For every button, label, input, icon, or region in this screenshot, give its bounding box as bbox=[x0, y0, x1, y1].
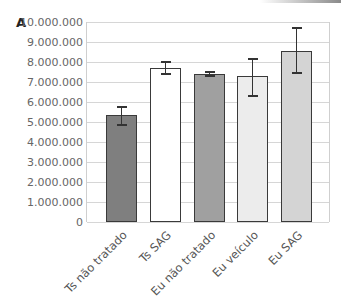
y-tick-label: 2.000.000 bbox=[27, 176, 83, 189]
y-tick-label: 4.000.000 bbox=[27, 136, 83, 149]
error-bar-cap bbox=[161, 61, 171, 63]
y-tick-label: 6.000.000 bbox=[27, 96, 83, 109]
error-bar-cap bbox=[248, 58, 258, 60]
bar bbox=[150, 68, 181, 222]
gridline bbox=[87, 42, 329, 43]
error-bar bbox=[165, 62, 167, 74]
x-tick-label: Eu SAG bbox=[265, 228, 305, 268]
bar bbox=[106, 115, 137, 222]
error-bar-cap bbox=[205, 71, 215, 73]
bar bbox=[194, 74, 225, 222]
y-tick-label: 8.000.000 bbox=[27, 56, 83, 69]
plot-area bbox=[86, 22, 330, 222]
gridline bbox=[87, 22, 329, 23]
decorative-top-rule bbox=[260, 0, 341, 3]
error-bar-cap bbox=[292, 72, 302, 74]
error-bar bbox=[252, 59, 254, 96]
error-bar-cap bbox=[292, 27, 302, 29]
error-bar-cap bbox=[117, 124, 127, 126]
y-tick-label: 7.000.000 bbox=[27, 76, 83, 89]
gridline bbox=[87, 222, 329, 223]
x-tick-label: Ts não tratado bbox=[62, 228, 130, 296]
y-tick-label: 5.000.000 bbox=[27, 116, 83, 129]
error-bar-cap bbox=[161, 73, 171, 75]
y-tick-label: 9.000.000 bbox=[27, 36, 83, 49]
error-bar-cap bbox=[248, 95, 258, 97]
y-tick-label: 0 bbox=[76, 216, 83, 229]
bar bbox=[281, 51, 312, 222]
y-tick-label: 3.000.000 bbox=[27, 156, 83, 169]
error-bar-cap bbox=[205, 75, 215, 77]
bar bbox=[237, 76, 268, 222]
error-bar bbox=[121, 107, 123, 125]
y-tick-label: 1.000.000 bbox=[27, 196, 83, 209]
error-bar-cap bbox=[117, 106, 127, 108]
x-tick-label: Ts SAG bbox=[136, 228, 173, 265]
error-bar bbox=[296, 28, 298, 73]
y-tick-label: 10.000.000 bbox=[20, 16, 83, 29]
